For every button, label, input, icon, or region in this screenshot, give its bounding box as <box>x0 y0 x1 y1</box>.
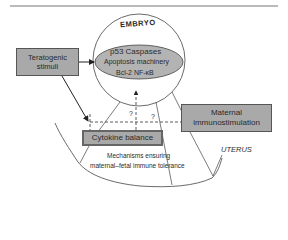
teratogenic-line2: stimuli <box>28 62 67 71</box>
teratogenic-stimuli-box: Teratogenic stimuli <box>16 48 79 76</box>
teratogenic-line1: Teratogenic <box>28 53 67 62</box>
maternal-line2: immunostimulation <box>193 118 260 128</box>
question-mark-1: ? <box>129 110 133 117</box>
uterus-label: UTERUS <box>221 146 252 154</box>
arrow-teratogenic-cytokine <box>62 76 88 121</box>
maternal-immunostimulation-box: Maternal immunostimulation <box>181 104 272 132</box>
mechanisms-line2: maternal–fetal immune tolerance <box>90 163 185 170</box>
embryo-line2: Apoptosis machinery <box>104 58 169 65</box>
question-mark-2: ? <box>151 113 155 120</box>
line-uterus-label <box>213 155 222 176</box>
line-cytokine-uterus <box>80 146 89 163</box>
mechanisms-line1: Mechanisms ensuring <box>107 153 170 160</box>
maternal-line1: Maternal <box>193 108 260 118</box>
embryo-line1: p53 Caspases <box>110 48 161 56</box>
line-maternal-uterus <box>190 132 213 176</box>
cytokine-label: Cytokine balance <box>92 133 153 143</box>
embryo-line3: Bcl-2 NF-κB <box>116 69 154 76</box>
cytokine-balance-box: Cytokine balance <box>82 130 163 146</box>
